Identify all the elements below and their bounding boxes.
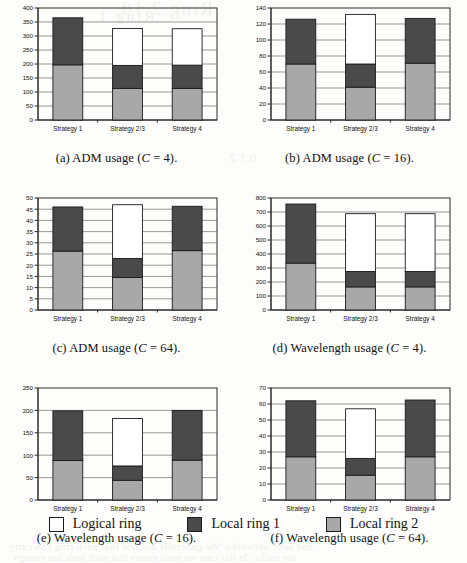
subfigure-e: 050100150200250Strategy 1Strategy 2/3Str… <box>0 380 233 502</box>
svg-text:120: 120 <box>255 20 266 27</box>
svg-text:140: 140 <box>255 4 266 11</box>
figure-container: Ring 2 10 Ring 1 0 1 2 and later network… <box>0 0 467 563</box>
svg-text:Strategy 4: Strategy 4 <box>405 125 435 133</box>
svg-text:100: 100 <box>22 88 33 95</box>
svg-text:60: 60 <box>259 400 266 407</box>
svg-text:700: 700 <box>255 208 266 215</box>
svg-text:70: 70 <box>259 384 266 391</box>
svg-text:600: 600 <box>255 222 266 229</box>
svg-text:Strategy 1: Strategy 1 <box>286 125 316 133</box>
svg-text:250: 250 <box>22 384 33 391</box>
svg-text:100: 100 <box>22 452 33 459</box>
svg-text:10: 10 <box>259 480 266 487</box>
svg-text:150: 150 <box>22 74 33 81</box>
subfigure-grid: 050100150200250300350400Strategy 1Strate… <box>0 0 467 502</box>
svg-text:35: 35 <box>26 228 33 235</box>
svg-text:Strategy 1: Strategy 1 <box>286 505 316 513</box>
subfigure-b: 020406080100120140Strategy 1Strategy 2/3… <box>233 0 466 190</box>
svg-text:80: 80 <box>259 52 266 59</box>
svg-text:20: 20 <box>259 464 266 471</box>
svg-text:40: 40 <box>259 84 266 91</box>
svg-text:0: 0 <box>262 496 266 503</box>
svg-text:40: 40 <box>26 217 33 224</box>
svg-text:Strategy 4: Strategy 4 <box>172 505 202 513</box>
svg-text:400: 400 <box>255 250 266 257</box>
plot-area-b: 020406080100120140Strategy 1Strategy 2/3… <box>233 0 466 146</box>
caption-d: (d) Wavelength usage (C = 4). <box>233 341 466 356</box>
svg-text:25: 25 <box>26 250 33 257</box>
svg-text:300: 300 <box>22 32 33 39</box>
svg-text:150: 150 <box>22 429 33 436</box>
svg-text:30: 30 <box>259 448 266 455</box>
bleed-through-bottom-2: the traffic. In this case we must ensure… <box>14 552 295 563</box>
plot-area-d: 0100200300400500600700800Strategy 1Strat… <box>233 190 466 336</box>
svg-text:250: 250 <box>22 46 33 53</box>
subfigure-c: 05101520253035404550Strategy 1Strategy 2… <box>0 190 233 380</box>
svg-text:Strategy 2/3: Strategy 2/3 <box>343 125 378 133</box>
subfigure-a: 050100150200250300350400Strategy 1Strate… <box>0 0 233 190</box>
subfigure-f: 010203040506070Strategy 1Strategy 2/3Str… <box>233 380 466 502</box>
svg-text:Strategy 4: Strategy 4 <box>405 315 435 323</box>
svg-text:100: 100 <box>255 36 266 43</box>
svg-text:0: 0 <box>29 496 33 503</box>
plot-area-f: 010203040506070Strategy 1Strategy 2/3Str… <box>233 380 466 526</box>
svg-text:Strategy 2/3: Strategy 2/3 <box>110 125 145 133</box>
svg-text:Strategy 1: Strategy 1 <box>53 125 83 133</box>
svg-text:20: 20 <box>259 100 266 107</box>
svg-text:50: 50 <box>259 416 266 423</box>
svg-text:Strategy 1: Strategy 1 <box>53 505 83 513</box>
svg-text:Strategy 4: Strategy 4 <box>405 505 435 513</box>
caption-c: (c) ADM usage (C = 64). <box>0 341 233 356</box>
svg-text:10: 10 <box>26 284 33 291</box>
svg-text:0: 0 <box>262 116 266 123</box>
svg-text:100: 100 <box>255 292 266 299</box>
svg-text:60: 60 <box>259 68 266 75</box>
svg-text:800: 800 <box>255 194 266 201</box>
subfigure-d: 0100200300400500600700800Strategy 1Strat… <box>233 190 466 380</box>
svg-text:200: 200 <box>22 407 33 414</box>
svg-text:Strategy 1: Strategy 1 <box>286 315 316 323</box>
svg-text:40: 40 <box>259 432 266 439</box>
svg-text:200: 200 <box>255 278 266 285</box>
svg-text:200: 200 <box>22 60 33 67</box>
svg-text:400: 400 <box>22 4 33 11</box>
plot-area-e: 050100150200250Strategy 1Strategy 2/3Str… <box>0 380 233 526</box>
caption-e: (e) Wavelength usage (C = 16). <box>0 531 233 546</box>
svg-text:0: 0 <box>262 306 266 313</box>
svg-text:15: 15 <box>26 273 33 280</box>
plot-area-c: 05101520253035404550Strategy 1Strategy 2… <box>0 190 233 336</box>
svg-text:Strategy 1: Strategy 1 <box>53 315 83 323</box>
svg-text:0: 0 <box>29 116 33 123</box>
svg-text:50: 50 <box>26 194 33 201</box>
svg-text:Strategy 4: Strategy 4 <box>172 125 202 133</box>
svg-text:Strategy 2/3: Strategy 2/3 <box>110 315 145 323</box>
svg-text:30: 30 <box>26 239 33 246</box>
plot-area-a: 050100150200250300350400Strategy 1Strate… <box>0 0 233 146</box>
caption-f: (f) Wavelength usage (C = 64). <box>233 531 466 546</box>
svg-text:Strategy 2/3: Strategy 2/3 <box>343 315 378 323</box>
caption-b: (b) ADM usage (C = 16). <box>233 151 466 166</box>
svg-text:300: 300 <box>255 264 266 271</box>
svg-text:500: 500 <box>255 236 266 243</box>
svg-text:50: 50 <box>26 474 33 481</box>
svg-text:Strategy 4: Strategy 4 <box>172 315 202 323</box>
svg-text:350: 350 <box>22 18 33 25</box>
svg-text:50: 50 <box>26 102 33 109</box>
caption-a: (a) ADM usage (C = 4). <box>0 151 233 166</box>
svg-text:Strategy 2/3: Strategy 2/3 <box>343 505 378 513</box>
svg-text:45: 45 <box>26 206 33 213</box>
svg-text:Strategy 2/3: Strategy 2/3 <box>110 505 145 513</box>
svg-text:5: 5 <box>29 295 33 302</box>
svg-text:0: 0 <box>29 306 33 313</box>
svg-text:20: 20 <box>26 262 33 269</box>
